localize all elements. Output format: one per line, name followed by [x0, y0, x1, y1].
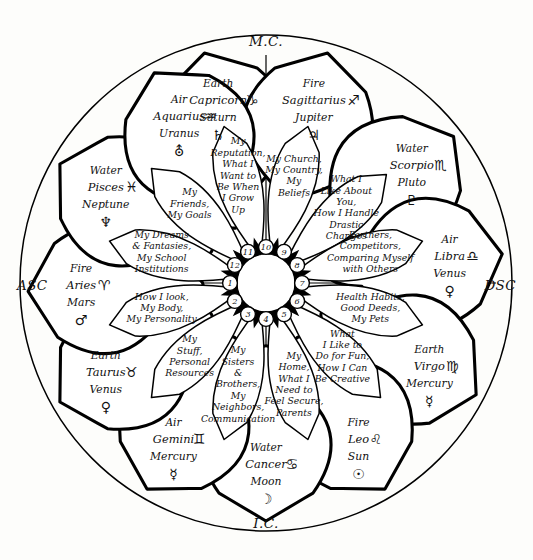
house-line: My Personality: [126, 313, 198, 324]
sign-name-label: Leo: [347, 432, 369, 446]
house-line: Want to: [220, 170, 257, 181]
house-number-1: 1: [227, 278, 232, 288]
house-line: What I: [222, 158, 254, 169]
house-line: My Dreams: [134, 229, 189, 240]
capricorn-glyph: ♑: [246, 92, 259, 108]
ruler-name-label: Mercury: [149, 450, 198, 463]
house-number-10: 10: [261, 242, 271, 252]
taurus-glyph: ♉: [125, 364, 138, 380]
aries-glyph: ♈: [98, 277, 111, 293]
house-line: Need to: [274, 384, 313, 395]
sign-name-label: Taurus: [86, 365, 126, 379]
moon-glyph: ☽: [260, 491, 273, 507]
ruler-name-label: Mercury: [405, 377, 454, 390]
house-line: Institutions: [134, 263, 189, 274]
house-line: Personal: [168, 356, 210, 367]
house-line: My Church,: [265, 153, 321, 164]
sign-name-label: Libra: [433, 249, 465, 263]
house-line: Sisters: [222, 356, 255, 367]
house-line: How I Handle: [313, 207, 380, 218]
cancer-glyph: ♋: [286, 456, 299, 472]
sun-glyph: ☉: [352, 466, 365, 482]
core-disc: [237, 254, 295, 312]
house-line: My: [230, 344, 247, 355]
house-number-12: 12: [230, 260, 240, 270]
element-label: Earth: [202, 77, 233, 89]
house-line: Competitors,: [340, 240, 401, 251]
house-line: Neighbors,: [211, 401, 264, 412]
aquarius-glyph: ♒: [204, 108, 217, 124]
house-line: How I look,: [134, 291, 189, 302]
asc-label: ASC: [15, 277, 48, 293]
house-number-6: 6: [295, 296, 300, 306]
ruler-name-label: Neptune: [81, 198, 129, 211]
pluto-glyph: ♇: [406, 192, 419, 208]
house-number-8: 8: [295, 260, 300, 270]
libra-glyph: ♎: [466, 248, 479, 264]
element-label: Earth: [90, 349, 121, 361]
element-label: Earth: [413, 343, 444, 355]
house-line: Resources: [164, 367, 214, 378]
house-number-5: 5: [281, 309, 286, 319]
venus-glyph: ♀: [444, 283, 454, 299]
ruler-name-label: Jupiter: [293, 111, 333, 124]
sign-name-label: Capricorn: [189, 93, 247, 107]
house-line: Be Creative: [314, 373, 371, 384]
house-number-3: 3: [245, 309, 250, 319]
element-label: Air: [170, 93, 188, 105]
house-line: What I: [331, 173, 363, 184]
sign-name-label: Scorpio: [390, 158, 434, 172]
element-label: Air: [164, 416, 182, 428]
house-line: Be When: [216, 181, 259, 192]
leo-glyph: ♌: [370, 431, 383, 447]
mars-glyph: ♂: [75, 312, 88, 328]
virgo-glyph: ♍: [446, 358, 459, 374]
house-text-12: My Dreams& Fantasies,My SchoolInstitutio…: [132, 229, 191, 274]
house-line: My: [230, 135, 247, 146]
house-line: You,: [336, 196, 356, 207]
house-line: &: [234, 367, 242, 378]
uranus-glyph: ⛢: [174, 143, 184, 159]
house-line: Beliefs: [277, 187, 310, 198]
house-line: My Goals: [167, 209, 212, 220]
house-number-7: 7: [299, 278, 305, 288]
house-line: Good Deeds,: [340, 302, 400, 313]
house-line: My: [181, 333, 198, 344]
house-line: How I Can: [316, 362, 367, 373]
saturn-glyph: ♄: [212, 127, 225, 143]
element-label: Fire: [69, 262, 92, 274]
wheel-canvas: 123456789101112 EarthCapricorn♑Saturn♄Fi…: [0, 0, 533, 560]
house-line: Friends,: [169, 198, 209, 209]
house-line: My Pets: [351, 313, 390, 324]
house-line: What I: [278, 373, 310, 384]
ruler-name-label: Mars: [66, 296, 96, 309]
ruler-name-label: Uranus: [159, 127, 200, 140]
house-line: Partners,: [348, 229, 392, 240]
house-line: Home,: [277, 361, 309, 372]
astrology-wheel-figure: 123456789101112 EarthCapricorn♑Saturn♄Fi…: [0, 0, 533, 560]
element-label: Air: [441, 233, 459, 245]
ruler-name-label: Moon: [249, 475, 281, 488]
ruler-name-label: Pluto: [397, 176, 427, 189]
house-line: Reputation,: [210, 147, 266, 158]
house-line: Stuff,: [177, 345, 203, 356]
pisces-glyph: ♓: [125, 179, 138, 195]
sign-name-label: Virgo: [414, 359, 445, 373]
scorpio-glyph: ♏: [434, 157, 447, 173]
house-line: I Like to: [322, 339, 363, 350]
house-number-11: 11: [243, 247, 253, 257]
house-line: Up: [231, 204, 245, 215]
element-label: Water: [250, 441, 283, 453]
mc-label: M.C.: [248, 33, 283, 49]
house-line: Health Habits,: [335, 291, 405, 302]
ruler-name-label: Sun: [348, 450, 369, 463]
house-line: with Others: [342, 263, 398, 274]
venus-glyph: ♀: [101, 399, 111, 415]
ic-label: I.C.: [252, 515, 278, 531]
element-label: Water: [396, 142, 429, 154]
house-line: My Country,: [264, 164, 323, 175]
house-line: Parents: [275, 407, 312, 418]
house-line: Feel Secure,: [264, 395, 324, 406]
house-line: Like About: [320, 185, 372, 196]
house-line: My: [181, 186, 198, 197]
